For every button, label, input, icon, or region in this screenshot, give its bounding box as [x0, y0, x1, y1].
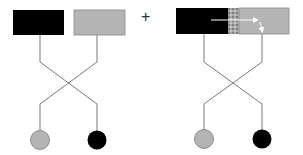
fused-black-segment — [176, 8, 228, 34]
gray-circle — [31, 131, 50, 150]
black-block — [13, 10, 64, 35]
black-circle — [88, 131, 107, 150]
right-panel — [176, 8, 289, 149]
fused-gray-segment — [239, 8, 289, 34]
plus-operator: + — [141, 9, 150, 25]
crossed-connectors — [204, 34, 262, 131]
diagram-canvas — [0, 0, 303, 155]
crossed-connectors — [40, 35, 97, 131]
black-circle — [253, 130, 272, 149]
left-panel — [13, 10, 125, 150]
gray-block — [74, 10, 125, 35]
junction-segment — [228, 8, 239, 34]
gray-circle — [195, 130, 214, 149]
